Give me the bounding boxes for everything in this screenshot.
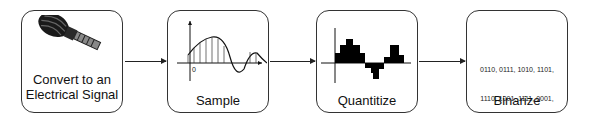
sampled-waveform-icon: 0 xyxy=(172,19,267,84)
arrow-3 xyxy=(419,61,465,62)
microphone-icon xyxy=(30,15,110,60)
binary-line-1: 0110, 0111, 1010, 1101, xyxy=(467,65,567,75)
step-convert-box: Convert to an Electrical Signal xyxy=(21,10,123,113)
label-line-1: Convert to an xyxy=(22,72,122,87)
step-binarize-box: 0110, 0111, 1010, 1101, 1110, 1001, 1111… xyxy=(466,10,568,113)
step-binarize-label: Binarize xyxy=(467,93,567,108)
quantized-waveform-icon xyxy=(321,23,416,88)
axis-origin-label: 0 xyxy=(192,66,196,73)
arrow-1 xyxy=(125,61,166,62)
binary-output: 0110, 0111, 1010, 1101, 1110, 1001, 1111… xyxy=(467,46,567,119)
step-sample-label: Sample xyxy=(168,93,268,108)
label-line-2: Electrical Signal xyxy=(22,87,122,102)
step-convert-label: Convert to an Electrical Signal xyxy=(22,72,122,102)
arrow-2 xyxy=(270,61,315,62)
step-quantitize-label: Quantitize xyxy=(317,93,417,108)
step-quantitize-box: Quantitize xyxy=(316,10,418,113)
step-sample-box: 0 Sample xyxy=(167,10,269,113)
